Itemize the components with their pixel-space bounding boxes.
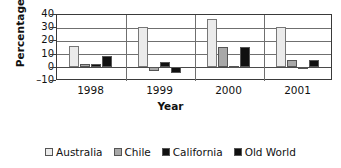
bar-slot xyxy=(149,14,159,80)
bar-slot xyxy=(276,14,286,80)
bar-chart: Percentage 403020100–10 1998199920002001… xyxy=(0,0,341,168)
bar-chile-1998 xyxy=(80,64,90,67)
bar-slot xyxy=(160,14,170,80)
legend-label: California xyxy=(173,146,223,158)
bar-slot xyxy=(229,14,239,80)
x-tick-label-1998: 1998 xyxy=(56,84,126,96)
bar-group-1998 xyxy=(56,14,125,80)
bar-slot xyxy=(80,14,90,80)
bar-slot xyxy=(309,14,319,80)
legend-swatch-icon xyxy=(45,148,53,156)
bar-australia-1998 xyxy=(69,46,79,67)
bar-slot xyxy=(171,14,181,80)
legend-swatch-icon xyxy=(114,148,122,156)
bar-old-world-2001 xyxy=(309,60,319,67)
legend-label: Chile xyxy=(125,146,151,158)
legend-item-california[interactable]: California xyxy=(162,146,223,158)
bar-australia-2000 xyxy=(207,19,217,67)
bar-old-world-2000 xyxy=(240,47,250,67)
bar-slot xyxy=(218,14,228,80)
bar-slot xyxy=(298,14,308,80)
bar-chile-2000 xyxy=(218,47,228,67)
bar-old-world-1998 xyxy=(102,56,112,67)
y-tick-mark--10 xyxy=(50,80,56,81)
bar-slot xyxy=(69,14,79,80)
bar-california-1998 xyxy=(91,64,101,67)
bar-chile-1999 xyxy=(149,67,159,71)
bar-group-1999 xyxy=(125,14,194,80)
bar-slot xyxy=(287,14,297,80)
x-tick-label-2001: 2001 xyxy=(263,84,333,96)
bar-chile-2001 xyxy=(287,60,297,67)
bar-california-2001 xyxy=(298,67,308,69)
legend-label: Old World xyxy=(245,146,296,158)
bar-australia-2001 xyxy=(276,27,286,67)
legend-swatch-icon xyxy=(162,148,170,156)
bar-groups xyxy=(56,14,332,80)
bar-australia-1999 xyxy=(138,27,148,67)
legend-item-chile[interactable]: Chile xyxy=(114,146,151,158)
bar-slot xyxy=(102,14,112,80)
bar-group-2000 xyxy=(194,14,263,80)
x-axis-title: Year xyxy=(0,100,341,112)
legend-label: Australia xyxy=(56,146,102,158)
bar-slot xyxy=(240,14,250,80)
legend-swatch-icon xyxy=(234,148,242,156)
bar-group-2001 xyxy=(263,14,332,80)
legend-item-australia[interactable]: Australia xyxy=(45,146,102,158)
bar-california-1999 xyxy=(160,62,170,67)
bar-slot xyxy=(138,14,148,80)
legend-item-old-world[interactable]: Old World xyxy=(234,146,296,158)
x-tick-label-1999: 1999 xyxy=(125,84,195,96)
bar-california-2000 xyxy=(229,66,239,68)
x-tick-label-2000: 2000 xyxy=(194,84,264,96)
chart-legend: AustraliaChileCaliforniaOld World xyxy=(0,146,341,158)
bar-old-world-1999 xyxy=(171,67,181,74)
bar-slot xyxy=(91,14,101,80)
bar-slot xyxy=(207,14,217,80)
